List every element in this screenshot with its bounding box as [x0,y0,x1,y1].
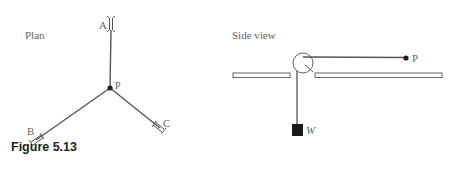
knot-p [107,85,112,90]
string-pb [36,88,110,140]
mass-w [292,124,303,136]
label-c: C [163,118,170,129]
label-p-plan: P [115,81,121,91]
label-p-side: P [412,53,418,64]
plan-title: Plan [25,30,45,41]
spring-a-icon [107,16,115,32]
side-view-diagram [233,53,442,136]
table-left [233,73,290,78]
plan-diagram [29,16,166,146]
label-a: A [99,20,107,31]
string-pc [110,88,160,128]
string-horizontal [303,57,405,58]
side-view-title: Side view [232,30,276,41]
string-pa [110,30,111,88]
label-w: W [306,125,315,136]
table-right [315,73,442,78]
point-p-dot [403,55,408,60]
label-b: B [27,126,34,137]
figure-caption: Figure 5.13 [11,140,77,154]
